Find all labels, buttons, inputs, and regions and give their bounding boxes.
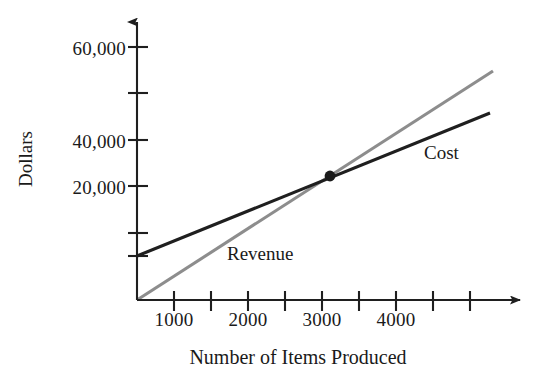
x-axis-title: Number of Items Produced <box>128 346 468 369</box>
y-axis-tick-label-60000: 60,000 <box>26 38 126 60</box>
y-axis-tick-label-20000: 20,000 <box>26 177 126 199</box>
y-axis-title: Dollars <box>15 111 37 207</box>
x-axis-tick-label-3000: 3000 <box>282 309 362 331</box>
x-axis-tick-label-4000: 4000 <box>356 309 436 331</box>
y-axis-tick-label-40000: 40,000 <box>26 131 126 153</box>
x-axis-tick-label-1000: 1000 <box>134 309 214 331</box>
break-even-point-marker <box>325 171 336 182</box>
series-line-cost <box>137 113 490 256</box>
series-label-cost: Cost <box>424 142 459 164</box>
chart-figure: 60,000 40,000 20,000 1000 2000 3000 4000… <box>0 0 548 379</box>
x-axis-tick-label-2000: 2000 <box>208 309 288 331</box>
series-label-revenue: Revenue <box>227 243 293 265</box>
